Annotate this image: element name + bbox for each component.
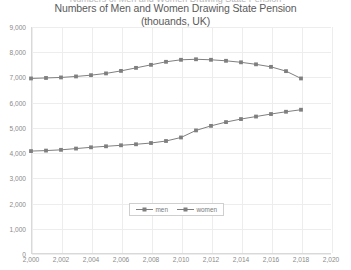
data-point-marker [59,148,63,152]
data-point-marker [179,136,183,140]
data-point-marker [269,112,273,116]
data-point-marker [224,120,228,124]
data-point-marker [104,144,108,148]
data-point-marker [29,77,33,81]
data-point-marker [59,76,63,80]
data-point-marker [299,77,303,81]
data-point-marker [164,139,168,143]
data-point-marker [149,63,153,67]
data-point-marker [284,69,288,73]
data-point-marker [164,60,168,64]
series-layer [0,0,351,270]
data-point-marker [119,143,123,147]
data-point-marker [134,142,138,146]
data-point-marker [209,124,213,128]
data-point-marker [299,108,303,112]
data-point-marker [269,65,273,69]
data-point-marker [44,149,48,153]
legend-label-men: men [156,206,168,213]
data-point-marker [239,117,243,121]
series-men [29,108,303,153]
data-point-marker [179,58,183,62]
data-point-marker [239,60,243,64]
data-point-marker [89,73,93,77]
data-point-marker [104,72,108,76]
data-point-marker [74,75,78,79]
data-point-marker [224,59,228,63]
chart-legend: men women [129,203,224,216]
series-line [31,110,301,151]
data-point-marker [194,129,198,133]
data-point-marker [254,115,258,119]
series-women [29,57,303,80]
data-point-marker [89,145,93,149]
data-point-marker [29,149,33,153]
legend-label-women: women [196,206,217,213]
data-point-marker [119,69,123,73]
legend-marker-men-icon [136,206,153,213]
data-point-marker [254,62,258,66]
data-point-marker [44,76,48,80]
legend-marker-women-icon [177,206,194,213]
data-point-marker [209,58,213,62]
data-point-marker [149,141,153,145]
chart-container: Numbers of Men and Women Drawing State P… [0,0,351,270]
data-point-marker [134,66,138,70]
legend-item-men[interactable]: men [136,206,168,213]
data-point-marker [284,110,288,114]
data-point-marker [74,147,78,151]
data-point-marker [194,57,198,61]
legend-item-women[interactable]: women [177,206,217,213]
